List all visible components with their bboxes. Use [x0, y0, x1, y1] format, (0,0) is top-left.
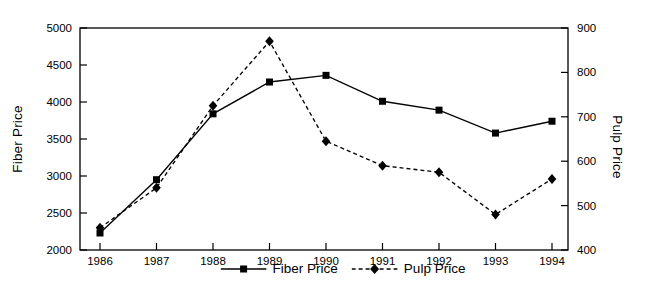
left-axis-tick-label: 2000 — [46, 244, 72, 256]
right-axis-tick-label: 700 — [577, 111, 596, 123]
x-axis-tick-label: 1986 — [87, 255, 113, 267]
fiber-price-marker — [436, 107, 443, 114]
left-axis-tick-label: 3000 — [46, 170, 72, 182]
price-chart-figure: Fiber Price Pulp Price 20002500300035004… — [0, 0, 646, 294]
pulp-price-marker — [548, 174, 557, 184]
fiber-price-line — [100, 75, 552, 233]
pulp-price-marker — [378, 161, 387, 171]
x-axis-tick-label: 1994 — [539, 255, 565, 267]
pulp-price-line — [100, 41, 552, 227]
fiber-price-marker — [323, 72, 330, 79]
legend-item-pulp-price: Pulp Price — [352, 261, 466, 276]
left-axis-tick-label: 5000 — [46, 22, 72, 34]
chart-legend: Fiber Price Pulp Price — [221, 261, 466, 276]
right-axis-tick-label: 800 — [577, 66, 596, 78]
pulp-price-marker — [491, 209, 500, 219]
fiber-price-marker — [266, 79, 273, 86]
solid-line-square-marker-icon — [221, 263, 267, 275]
fiber-price-marker — [210, 110, 217, 117]
fiber-price-marker — [492, 130, 499, 137]
price-chart: 2000250030003500400045005000400500600700… — [0, 0, 646, 294]
pulp-price-marker — [322, 136, 331, 146]
pulp-price-marker — [265, 36, 274, 46]
right-axis-tick-label: 600 — [577, 155, 596, 167]
fiber-price-marker — [153, 176, 160, 183]
left-axis-tick-label: 3500 — [46, 133, 72, 145]
left-axis-tick-label: 2500 — [46, 207, 72, 219]
left-axis-tick-label: 4500 — [46, 59, 72, 71]
right-axis-tick-label: 500 — [577, 200, 596, 212]
legend-label-fiber-price: Fiber Price — [273, 261, 338, 276]
x-axis-tick-label: 1987 — [144, 255, 170, 267]
right-axis-tick-label: 400 — [577, 244, 596, 256]
legend-label-pulp-price: Pulp Price — [404, 261, 466, 276]
pulp-price-marker — [435, 167, 444, 177]
left-axis-tick-label: 4000 — [46, 96, 72, 108]
right-axis-tick-label: 900 — [577, 22, 596, 34]
fiber-price-marker — [379, 98, 386, 105]
dashed-line-diamond-marker-icon — [352, 263, 398, 275]
x-axis-tick-label: 1993 — [483, 255, 509, 267]
fiber-price-marker — [549, 118, 556, 125]
legend-item-fiber-price: Fiber Price — [221, 261, 338, 276]
